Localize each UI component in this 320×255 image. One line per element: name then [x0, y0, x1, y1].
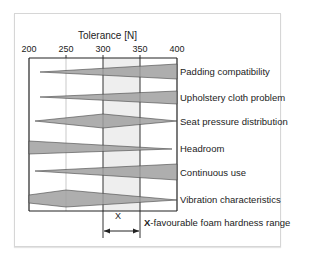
favourable-range-band	[103, 58, 140, 211]
row-label-upholstery: Upholstery cloth problem	[180, 92, 285, 103]
row-headroom-shape	[29, 141, 172, 154]
row-label-padding: Padding compatibility	[180, 66, 270, 77]
row-label-continuous-use: Continuous use	[180, 167, 246, 178]
row-seat-pressure-shape	[35, 114, 177, 128]
legend-text: -favourable foam hardness range	[150, 217, 290, 228]
x-range-marker: X	[115, 211, 121, 221]
legend: X-favourable foam hardness range	[144, 217, 290, 228]
row-label-headroom: Headroom	[180, 143, 224, 154]
row-label-vibration: Vibration characteristics	[180, 194, 281, 205]
row-label-seat-pressure: Seat pressure distribution	[180, 116, 288, 127]
